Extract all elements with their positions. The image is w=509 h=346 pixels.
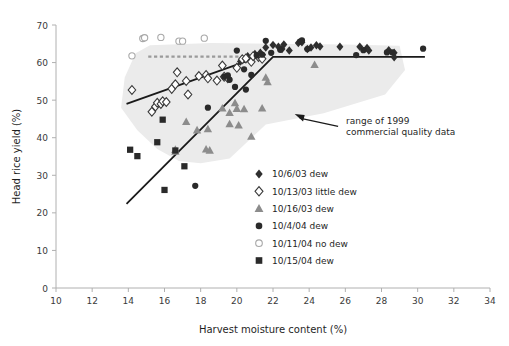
data-point <box>420 46 426 52</box>
data-point <box>299 37 305 43</box>
x-tick-label: 14 <box>123 296 135 306</box>
x-tick-label: 20 <box>231 296 243 306</box>
x-axis-title: Harvest moisture content (%) <box>199 324 347 335</box>
y-tick-label: 0 <box>42 284 48 294</box>
data-point <box>161 187 167 193</box>
data-point <box>158 34 164 40</box>
data-point <box>277 47 283 53</box>
y-tick-label: 60 <box>37 58 49 68</box>
x-tick-label: 34 <box>484 296 496 306</box>
data-point <box>160 117 166 123</box>
data-point <box>241 66 247 72</box>
data-point <box>248 72 254 78</box>
legend-item-label: 10/6/03 dew <box>272 169 328 179</box>
x-tick-label: 10 <box>50 296 62 306</box>
x-tick-label: 28 <box>376 296 388 306</box>
data-point <box>268 50 274 56</box>
data-point <box>360 47 366 53</box>
x-tick-label: 24 <box>303 296 315 306</box>
data-point <box>134 153 140 159</box>
data-point <box>234 47 240 53</box>
data-point <box>172 147 178 153</box>
data-point <box>353 52 359 58</box>
data-point <box>243 86 249 92</box>
data-point <box>259 52 265 58</box>
legend-marker-open-circle <box>256 240 263 247</box>
y-tick-label: 10 <box>37 246 49 256</box>
x-tick-label: 16 <box>159 296 171 306</box>
legend-item-label: 10/13/03 little dew <box>272 187 357 197</box>
scatter-plot: 0102030405060701012141618202224262830323… <box>0 0 509 346</box>
data-point <box>254 52 260 58</box>
legend-marker-filled-square <box>256 257 263 264</box>
legend-item-label: 10/4/04 dew <box>272 221 328 231</box>
data-point <box>141 35 147 41</box>
legend-item-label: 10/16/03 dew <box>272 204 334 214</box>
data-point <box>389 49 395 55</box>
y-tick-label: 70 <box>37 21 49 31</box>
data-point <box>192 183 198 189</box>
data-point <box>127 147 133 153</box>
annotation-line-1: range of 1999 <box>346 116 410 126</box>
x-tick-label: 12 <box>86 296 97 306</box>
y-tick-label: 50 <box>37 96 49 106</box>
data-point <box>304 46 310 52</box>
x-tick-label: 26 <box>340 296 352 306</box>
data-point <box>154 139 160 145</box>
y-tick-label: 40 <box>37 133 49 143</box>
data-point <box>232 84 238 90</box>
x-tick-label: 22 <box>267 296 278 306</box>
y-tick-label: 30 <box>37 171 49 181</box>
legend-marker-filled-circle <box>256 223 263 230</box>
legend-item-label: 10/15/04 dew <box>272 256 334 266</box>
annotation-line-2: commercial quality data <box>346 127 455 137</box>
y-axis-title: Head rice yield (%) <box>11 109 22 205</box>
y-tick-label: 20 <box>37 208 49 218</box>
data-point <box>205 105 211 111</box>
data-point <box>179 38 185 44</box>
x-tick-label: 18 <box>195 296 207 306</box>
x-tick-label: 32 <box>448 296 459 306</box>
legend-item-label: 10/11/04 no dew <box>272 239 348 249</box>
data-point <box>201 35 207 41</box>
x-tick-label: 30 <box>412 296 424 306</box>
data-point <box>129 53 135 59</box>
data-point <box>384 49 390 55</box>
data-point <box>181 163 187 169</box>
data-point <box>263 38 269 44</box>
data-point <box>226 77 232 83</box>
chart-container: 0102030405060701012141618202224262830323… <box>0 0 509 346</box>
